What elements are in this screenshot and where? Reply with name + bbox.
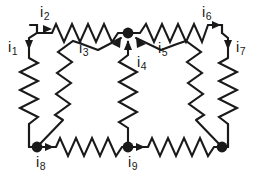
branch-i9 — [128, 138, 222, 156]
current-subscript-i9: 9 — [132, 160, 138, 172]
branch-i5 — [136, 38, 222, 147]
node-bottom-left — [32, 142, 43, 153]
resistor-i9 — [148, 138, 222, 156]
current-label-i8: i8 — [36, 155, 45, 170]
current-symbol-i6: i — [202, 4, 205, 20]
current-label-i4: i4 — [137, 55, 146, 70]
node-bottom-center — [123, 142, 134, 153]
current-subscript-i7: 7 — [240, 45, 246, 57]
branch-i4 — [119, 40, 137, 147]
current-symbol-i9: i — [128, 154, 131, 170]
branch-i6 — [128, 21, 222, 42]
current-label-i7: i7 — [236, 40, 245, 55]
current-symbol-i2: i — [40, 4, 43, 20]
current-symbol-i7: i — [236, 39, 239, 55]
resistor-i8 — [56, 138, 128, 156]
current-symbol-i3: i — [79, 40, 82, 56]
resistor-i4 — [119, 41, 137, 128]
arrow-i7 — [224, 40, 232, 50]
current-label-i9: i9 — [128, 155, 137, 170]
branch-i7 — [219, 25, 237, 147]
current-label-i5: i5 — [158, 41, 167, 56]
current-subscript-i6: 6 — [206, 10, 212, 22]
circuit-diagram: i1 i2 i3 i4 i5 i6 i7 i8 i9 — [0, 0, 257, 182]
current-symbol-i1: i — [8, 39, 11, 55]
current-subscript-i8: 8 — [40, 160, 46, 172]
current-subscript-i5: 5 — [162, 46, 168, 58]
node-bottom-right — [217, 142, 228, 153]
arrow-i4 — [124, 40, 132, 50]
current-symbol-i4: i — [137, 54, 140, 70]
arrow-i1 — [25, 40, 33, 50]
current-subscript-i3: 3 — [83, 46, 89, 58]
current-symbol-i5: i — [158, 40, 161, 56]
current-label-i6: i6 — [202, 5, 211, 20]
arrow-i2 — [43, 25, 52, 33]
wire-i3-bottom-lead — [37, 120, 63, 147]
resistor-i6 — [140, 24, 216, 42]
arrow-i8 — [45, 143, 54, 151]
node-top-center — [123, 28, 134, 39]
current-subscript-i2: 2 — [44, 10, 50, 22]
current-label-i2: i2 — [40, 5, 49, 20]
current-label-i1: i1 — [8, 40, 17, 55]
branch-i1 — [20, 25, 38, 147]
resistor-i3 — [55, 41, 98, 120]
current-subscript-i4: 4 — [141, 60, 147, 72]
current-symbol-i8: i — [36, 154, 39, 170]
branch-i8 — [37, 138, 128, 156]
current-label-i3: i3 — [79, 41, 88, 56]
arrow-i9 — [136, 143, 145, 151]
wire-i5-bottom-lead — [196, 120, 222, 147]
current-subscript-i1: 1 — [12, 45, 18, 57]
